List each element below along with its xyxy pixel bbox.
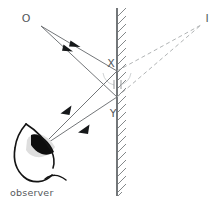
label-observer: observer: [10, 187, 54, 198]
optics-ray-diagram: O I X Y observer: [0, 0, 222, 205]
label-point-x: X: [107, 57, 115, 70]
diagram-background: [0, 0, 222, 205]
label-image-i: I: [205, 12, 208, 25]
label-object-o: O: [22, 12, 31, 25]
label-point-y: Y: [109, 107, 117, 120]
ray-diagram-canvas: O I X Y observer: [0, 0, 222, 205]
